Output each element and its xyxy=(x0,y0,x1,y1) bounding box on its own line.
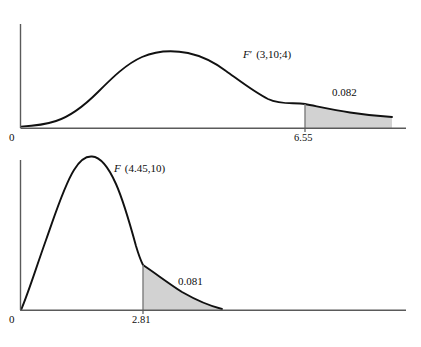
chart-bottom: 0 2.81 0.081 F(4.45,10) xyxy=(9,156,406,325)
origin-label-bottom: 0 xyxy=(9,313,15,325)
tail-area-label-bottom: 0.081 xyxy=(178,275,203,287)
origin-label-top: 0 xyxy=(9,131,15,143)
two-f-distribution-charts: 0 6.55 0.082 F′(3,10;4) 0 2.81 0.081 F(4… xyxy=(0,0,421,347)
chart-top: 0 6.55 0.082 F′(3,10;4) xyxy=(9,24,406,143)
curve-label-bottom-params: (4.45,10) xyxy=(125,162,166,175)
x-tick-label-bottom: 2.81 xyxy=(132,314,150,325)
curve-label-bottom-symbol: F xyxy=(113,162,121,174)
x-tick-label-top: 6.55 xyxy=(294,132,312,143)
tail-area-label-top: 0.082 xyxy=(332,86,357,98)
curve-label-top-params: (3,10;4) xyxy=(256,48,291,61)
curve-label-bottom: F(4.45,10) xyxy=(113,162,165,175)
shaded-area-bottom xyxy=(143,265,222,310)
curve-label-top-prime: ′ xyxy=(250,48,252,60)
curve-label-top: F′(3,10;4) xyxy=(242,48,292,61)
